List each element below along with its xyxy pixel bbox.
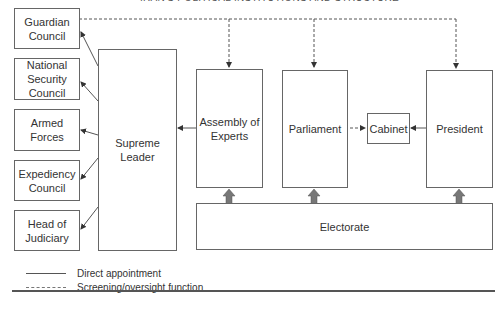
solid-line-swatch xyxy=(26,273,66,274)
cabinet-box: Cabinet xyxy=(367,113,410,144)
bottom-rule xyxy=(12,290,495,292)
expediency-council-box: Expediency Council xyxy=(14,160,80,201)
guardian-council-box: Guardian Council xyxy=(14,8,80,49)
supreme-leader-box: Supreme Leader xyxy=(98,49,177,251)
national-security-council-box: National Security Council xyxy=(14,58,80,100)
parliament-box: Parliament xyxy=(282,70,348,188)
assembly-of-experts-box: Assembly of Experts xyxy=(196,69,263,188)
dashed-line-swatch xyxy=(26,287,66,288)
president-box: President xyxy=(426,70,493,188)
electorate-box: Electorate xyxy=(196,203,493,250)
legend-label: Direct appointment xyxy=(77,268,161,279)
legend-direct: Direct appointment xyxy=(26,268,161,279)
head-of-judiciary-box: Head of Judiciary xyxy=(14,210,80,251)
armed-forces-box: Armed Forces xyxy=(14,109,80,151)
